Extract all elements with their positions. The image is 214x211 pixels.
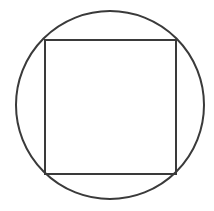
inscribed-square: [45, 40, 176, 174]
diagram-canvas: [0, 0, 214, 211]
